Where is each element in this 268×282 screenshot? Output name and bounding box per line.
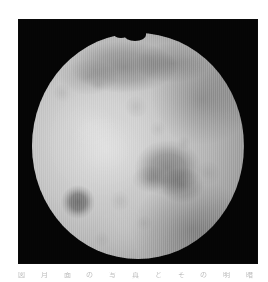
figure-caption-text: 図 月 面 の 写 真 と そ の 明 暗 の 分 布 [18, 272, 262, 279]
figure-plate [18, 19, 258, 264]
figure-caption: 図 月 面 の 写 真 と そ の 明 暗 の 分 布 [0, 272, 268, 282]
moon-disc [32, 33, 244, 259]
moon-surface-grain [32, 33, 244, 259]
moon-image [18, 19, 258, 264]
moon-surface-features [32, 33, 244, 259]
